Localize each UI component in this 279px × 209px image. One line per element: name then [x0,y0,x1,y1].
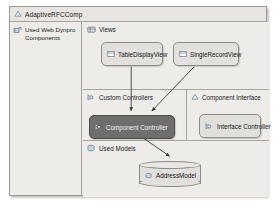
used-models-region[interactable]: Used Models [83,141,269,197]
node-component-controller[interactable]: Component Controller [89,115,175,139]
node-address-model[interactable]: AddressModel [139,161,201,188]
node-label: TableDisplayView [118,51,167,58]
used-models-icon [87,144,96,153]
cylinder-top [139,161,201,169]
view-icon [107,50,115,58]
custom-controllers-header: Custom Controllers [83,90,186,102]
custom-controllers-title: Custom Controllers [99,94,153,101]
sidebar-label: Used Web Dynpro Components [25,26,78,41]
views-region[interactable]: Views TableDisplayView [83,22,269,90]
node-label: Interface Controller [217,123,271,130]
custom-controller-icon [87,93,96,102]
component-interface-region[interactable]: Component Interface Interface Controller [187,90,269,141]
sidebar-header: Used Web Dynpro Components [10,22,81,41]
views-folder-icon [87,25,96,34]
component-interface-icon [191,93,199,101]
cylinder-label-row: AddressModel [139,169,201,182]
component-interface-header: Component Interface [187,90,269,101]
controller-icon [95,123,103,131]
node-label: AddressModel [156,172,196,179]
used-models-title: Used Models [99,145,136,152]
used-web-dynpro-components-panel[interactable]: Used Web Dynpro Components [10,22,82,195]
node-table-display-view[interactable]: TableDisplayView [101,42,163,66]
node-interface-controller[interactable]: Interface Controller [199,114,261,138]
node-single-record-view[interactable]: SingleRecordView [173,42,239,66]
diagram-canvas[interactable]: Views TableDisplayView [83,22,266,195]
views-header: Views [83,22,269,34]
node-label: Component Controller [106,124,168,131]
component-diagram-screenshot: AdaptiveRFCComp Used Web Dynpro Componen… [0,0,279,209]
model-icon [145,172,153,180]
used-models-header: Used Models [83,141,269,153]
used-components-icon [13,26,22,35]
controller-icon [205,122,214,131]
custom-controllers-region[interactable]: Custom Controllers Component Controller [83,90,187,141]
view-icon [179,50,187,58]
component-interface-title: Component Interface [202,94,261,101]
views-title: Views [99,26,116,33]
component-icon [14,10,22,18]
diagram-body: Used Web Dynpro Components [10,22,266,195]
window-title: AdaptiveRFCComp [25,11,83,18]
node-label: SingleRecordView [190,51,241,58]
diagram-window: AdaptiveRFCComp Used Web Dynpro Componen… [9,6,267,196]
window-title-bar: AdaptiveRFCComp [10,7,266,22]
